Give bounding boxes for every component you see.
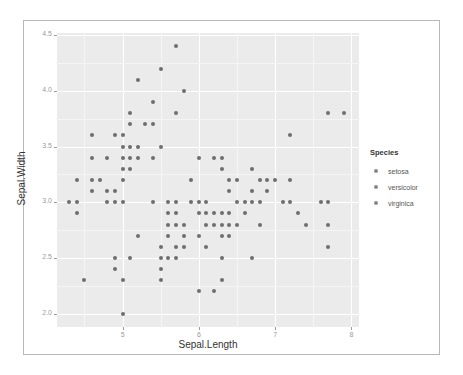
y-tick-label: 3.5 <box>28 142 52 149</box>
data-point <box>288 200 292 204</box>
legend-item-setosa: setosa <box>370 163 418 179</box>
data-point <box>174 111 178 115</box>
data-point <box>121 278 125 282</box>
data-point <box>121 133 125 137</box>
x-tick-label: 6 <box>189 331 209 338</box>
data-point <box>128 111 132 115</box>
data-point <box>166 200 170 204</box>
data-point <box>265 189 269 193</box>
data-point <box>220 211 224 215</box>
grid-line <box>57 314 359 315</box>
legend-point-icon <box>370 181 382 193</box>
data-point <box>288 178 292 182</box>
data-point <box>189 178 193 182</box>
data-point <box>273 178 277 182</box>
data-point <box>197 289 201 293</box>
grid-line <box>57 63 359 64</box>
data-point <box>67 200 71 204</box>
data-point <box>105 189 109 193</box>
data-point <box>143 122 147 126</box>
y-tick-mark <box>54 202 57 203</box>
y-tick-mark <box>54 147 57 148</box>
data-point <box>212 223 216 227</box>
data-point <box>98 178 102 182</box>
data-point <box>174 223 178 227</box>
data-point <box>250 256 254 260</box>
x-tick-mark <box>351 327 352 330</box>
data-point <box>220 156 224 160</box>
data-point <box>136 145 140 149</box>
data-point <box>166 211 170 215</box>
data-point <box>174 245 178 249</box>
data-point <box>136 234 140 238</box>
legend-item-virginica: virginica <box>370 195 418 211</box>
data-point <box>75 211 79 215</box>
x-tick-mark <box>123 327 124 330</box>
data-point <box>121 156 125 160</box>
data-point <box>189 200 193 204</box>
legend-label: virginica <box>388 200 414 207</box>
data-point <box>136 78 140 82</box>
grid-line <box>84 33 85 327</box>
legend: Species setosa versicolor virginica <box>370 148 418 211</box>
data-point <box>90 189 94 193</box>
x-tick-label: 5 <box>113 331 133 338</box>
data-point <box>90 156 94 160</box>
grid-line <box>57 202 359 203</box>
data-point <box>288 133 292 137</box>
data-point <box>113 256 117 260</box>
data-point <box>105 156 109 160</box>
y-tick-mark <box>54 258 57 259</box>
data-point <box>204 245 208 249</box>
grid-line <box>57 91 359 92</box>
data-point <box>174 200 178 204</box>
x-tick-mark <box>199 327 200 330</box>
data-point <box>243 211 247 215</box>
data-point <box>128 167 132 171</box>
data-point <box>159 67 163 71</box>
data-point <box>90 133 94 137</box>
data-point <box>235 178 239 182</box>
y-axis-title: Sepal.Width <box>16 144 27 214</box>
grid-line <box>57 147 359 148</box>
legend-point-icon <box>370 197 382 209</box>
data-point <box>235 223 239 227</box>
x-axis-title: Sepal.Length <box>57 339 359 350</box>
data-point <box>151 156 155 160</box>
data-point <box>113 189 117 193</box>
y-tick-label: 4.5 <box>28 30 52 37</box>
data-point <box>136 156 140 160</box>
data-point <box>113 267 117 271</box>
data-point <box>166 234 170 238</box>
data-point <box>227 178 231 182</box>
data-point <box>342 111 346 115</box>
grid-line <box>351 33 352 327</box>
data-point <box>121 312 125 316</box>
data-point <box>151 122 155 126</box>
y-tick-mark <box>54 314 57 315</box>
data-point <box>182 223 186 227</box>
data-point <box>227 189 231 193</box>
data-point <box>204 223 208 227</box>
y-tick-mark <box>54 35 57 36</box>
y-tick-label: 3.0 <box>28 197 52 204</box>
data-point <box>227 234 231 238</box>
data-point <box>128 256 132 260</box>
data-point <box>220 256 224 260</box>
data-point <box>174 256 178 260</box>
data-point <box>281 200 285 204</box>
x-tick-label: 8 <box>341 331 361 338</box>
legend-point-icon <box>370 165 382 177</box>
x-tick-label: 7 <box>265 331 285 338</box>
data-point <box>151 100 155 104</box>
data-point <box>258 178 262 182</box>
data-point <box>75 200 79 204</box>
data-point <box>105 200 109 204</box>
data-point <box>326 111 330 115</box>
y-tick-label: 2.0 <box>28 309 52 316</box>
data-point <box>182 89 186 93</box>
grid-line <box>161 33 162 327</box>
data-point <box>326 223 330 227</box>
data-point <box>197 234 201 238</box>
data-point <box>304 223 308 227</box>
